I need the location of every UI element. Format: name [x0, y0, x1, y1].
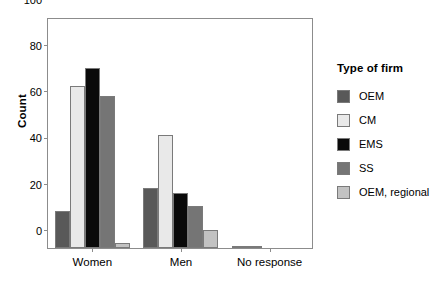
- bar[interactable]: [70, 86, 85, 248]
- legend-item-label: SS: [359, 162, 374, 174]
- bar[interactable]: [203, 230, 218, 248]
- bar[interactable]: [232, 246, 247, 248]
- bar[interactable]: [173, 193, 188, 248]
- legend-item[interactable]: OEM, regional: [337, 180, 435, 204]
- legend-swatch: [337, 90, 350, 103]
- legend-items: OEMCMEMSSSOEM, regional: [337, 84, 435, 204]
- bar[interactable]: [188, 206, 203, 248]
- bar[interactable]: [100, 96, 115, 248]
- legend-swatch: [337, 138, 350, 151]
- legend-item[interactable]: CM: [337, 108, 435, 132]
- legend-title: Type of firm: [337, 62, 435, 74]
- y-axis-tick: 80: [30, 36, 48, 54]
- bar-group-bars: [48, 19, 137, 248]
- bar-group-bars: [225, 19, 314, 248]
- x-axis-tick-label: Women: [73, 256, 112, 268]
- y-axis-tick: 100: [24, 0, 48, 8]
- y-axis-tick: 40: [30, 129, 48, 147]
- legend-item[interactable]: SS: [337, 156, 435, 180]
- legend-swatch: [337, 162, 350, 175]
- x-axis-tick-mark: [270, 248, 271, 252]
- bar[interactable]: [158, 135, 173, 248]
- bar[interactable]: [143, 188, 158, 248]
- legend-item-label: OEM, regional: [359, 186, 429, 198]
- y-axis-title: Count: [16, 71, 28, 151]
- bar[interactable]: [55, 211, 70, 248]
- bar[interactable]: [115, 243, 130, 248]
- x-axis-tick-mark: [181, 248, 182, 252]
- bar[interactable]: [247, 246, 262, 248]
- x-axis-tick-label: No response: [237, 256, 302, 268]
- bar[interactable]: [85, 68, 100, 248]
- bar-group: [137, 19, 226, 248]
- legend-item-label: OEM: [359, 90, 384, 102]
- bar-group: [225, 19, 314, 248]
- x-axis-tick-mark: [92, 248, 93, 252]
- bar-group-bars: [137, 19, 226, 248]
- legend-item[interactable]: EMS: [337, 132, 435, 156]
- legend-swatch: [337, 186, 350, 199]
- legend: Type of firm OEMCMEMSSSOEM, regional: [337, 62, 435, 204]
- y-axis-tick: 60: [30, 82, 48, 100]
- y-axis-tick: 0: [36, 221, 48, 239]
- plot-area: 020406080100 WomenMenNo response: [47, 18, 313, 249]
- y-axis-tick-label: 100: [24, 0, 48, 6]
- legend-item-label: EMS: [359, 138, 383, 150]
- legend-item-label: CM: [359, 114, 376, 126]
- x-axis-tick-label: Men: [170, 256, 192, 268]
- bars-layer: [48, 19, 312, 248]
- bar-chart-figure: Count 020406080100 WomenMenNo response T…: [0, 0, 438, 283]
- bar-group: [48, 19, 137, 248]
- legend-item[interactable]: OEM: [337, 84, 435, 108]
- legend-swatch: [337, 114, 350, 127]
- y-axis-tick: 20: [30, 175, 48, 193]
